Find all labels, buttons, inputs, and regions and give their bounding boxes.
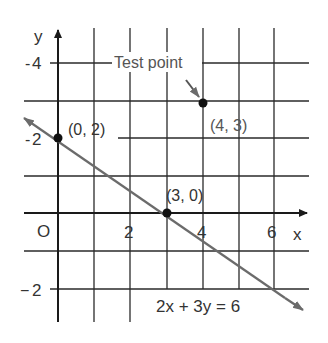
y-tick-label-neg2: 2: [32, 281, 41, 300]
point-label-y-intercept: (0, 2): [68, 121, 105, 138]
test-point-arrow: [186, 80, 199, 97]
coordinate-plane: y x O - 4 - 2 − 2 2 4 6 (0, 2) (3, 0) (4…: [0, 0, 328, 343]
x-axis-label: x: [293, 225, 302, 244]
y-axis-label: y: [34, 27, 43, 46]
equation-line: [24, 118, 285, 298]
point-label-test: (4, 3): [210, 117, 247, 134]
equation-label: 2x + 3y = 6: [156, 297, 240, 316]
equation-line-lower: [285, 298, 303, 310]
point-x-intercept: [163, 209, 172, 218]
y-tick-label-2: 2: [32, 130, 41, 149]
test-point-callout: Test point: [114, 54, 183, 71]
x-tick-label-6: 6: [267, 223, 276, 242]
y-tick-label-4: 4: [32, 54, 41, 73]
y-tick-sign-neg2: −: [20, 282, 29, 299]
origin-label: O: [37, 222, 50, 241]
x-tick-label-4: 4: [197, 223, 206, 242]
point-y-intercept: [54, 134, 63, 143]
grid-vertical-lines: [94, 28, 274, 322]
point-label-x-intercept: (3, 0): [166, 187, 203, 204]
x-tick-label-2: 2: [124, 223, 133, 242]
y-tick-sign-2: -: [25, 131, 30, 148]
point-test: [199, 99, 208, 108]
y-tick-sign-4: -: [25, 55, 30, 72]
